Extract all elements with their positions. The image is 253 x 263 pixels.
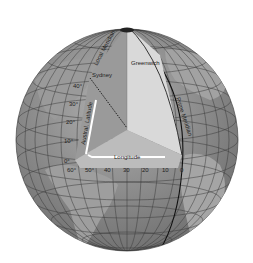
lat-tick-0: 0° — [64, 158, 70, 164]
lon-tick-60: 60° — [67, 167, 77, 173]
lon-tick-40: 40 — [104, 167, 111, 173]
lat-tick-20: 20° — [66, 119, 76, 125]
lon-tick-50: 50° — [85, 167, 95, 173]
lat-tick-40: 40° — [73, 83, 83, 89]
lat-tick-10: 10° — [64, 138, 74, 144]
lon-tick-10: 10 — [162, 167, 169, 173]
longitude-label: Longitude — [114, 154, 141, 160]
lon-tick-30: 30 — [123, 167, 130, 173]
greenwich-label: Greenwich — [131, 60, 160, 66]
globe-diagram: Local Meridian Sydney Greenwich Prime Me… — [0, 0, 253, 263]
sydney-label: Sydney — [92, 72, 112, 78]
lon-tick-20: 20 — [142, 167, 149, 173]
lat-tick-30: 30° — [69, 101, 79, 107]
